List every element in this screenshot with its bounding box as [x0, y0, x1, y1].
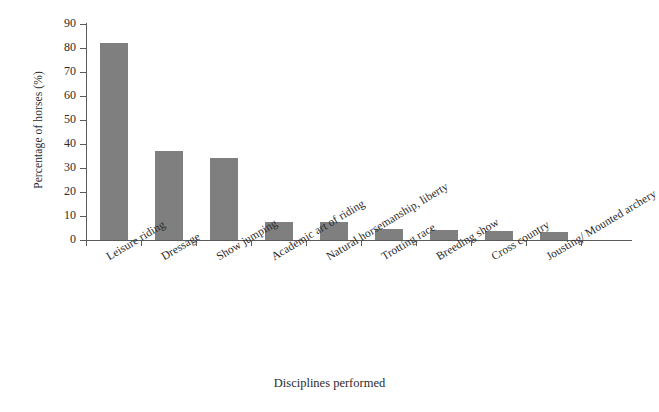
y-axis-tick: 60 — [80, 96, 86, 97]
x-axis-tick — [86, 240, 87, 246]
bar — [210, 158, 238, 240]
y-axis-tick: 90 — [80, 24, 86, 25]
y-axis-tick-label: 80 — [52, 40, 76, 55]
x-axis-tick — [141, 240, 142, 246]
y-axis-tick-label: 60 — [52, 88, 76, 103]
y-axis-tick-label: 90 — [52, 16, 76, 31]
bar — [100, 43, 128, 240]
x-axis-tick — [416, 240, 417, 246]
y-axis-tick-label: 40 — [52, 136, 76, 151]
y-axis-tick-label: 0 — [52, 232, 76, 247]
x-axis-tick — [361, 240, 362, 246]
x-axis-tick — [306, 240, 307, 246]
y-axis-tick: 20 — [80, 192, 86, 193]
x-axis-tick — [471, 240, 472, 246]
y-axis-tick-label: 10 — [52, 208, 76, 223]
y-axis-tick: 10 — [80, 216, 86, 217]
y-axis-tick: 40 — [80, 144, 86, 145]
x-axis-title: Disciplines performed — [0, 376, 659, 391]
x-axis-tick — [196, 240, 197, 246]
y-axis-tick-label: 30 — [52, 160, 76, 175]
y-axis-tick: 70 — [80, 72, 86, 73]
y-axis-tick: 50 — [80, 120, 86, 121]
y-axis-title: Percentage of horses (%) — [32, 30, 44, 230]
x-axis-tick — [251, 240, 252, 246]
y-axis-tick-label: 20 — [52, 184, 76, 199]
y-axis-tick-label: 70 — [52, 64, 76, 79]
x-axis-tick — [526, 240, 527, 246]
y-axis-tick: 30 — [80, 168, 86, 169]
y-axis-tick: 80 — [80, 48, 86, 49]
x-axis-tick — [581, 240, 582, 246]
bar-chart: Percentage of horses (%) 010203040506070… — [0, 0, 659, 412]
y-axis-tick-label: 50 — [52, 112, 76, 127]
